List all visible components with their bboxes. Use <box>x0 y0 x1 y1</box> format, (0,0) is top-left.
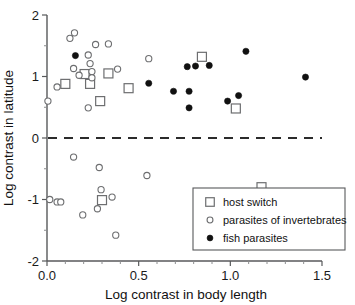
data-point <box>96 164 102 170</box>
data-point <box>206 62 212 68</box>
series-parasites-of-invertebrates <box>45 30 152 239</box>
y-axis-tick-label: 2 <box>32 8 39 23</box>
data-point <box>61 79 70 88</box>
data-point <box>85 105 91 111</box>
data-point <box>146 56 152 62</box>
data-point <box>186 105 192 111</box>
data-point <box>89 68 95 74</box>
scatter-plot-figure: 210-1-20.00.51.01.5 host switchparasites… <box>0 0 355 305</box>
data-point <box>92 41 98 47</box>
data-point <box>243 48 249 54</box>
legend-item-label: parasites of invertebrates <box>223 214 347 226</box>
data-point <box>80 212 86 218</box>
chart-legend: host switchparasites of invertebratesfis… <box>193 188 347 250</box>
y-axis-tick-label: -1 <box>27 192 39 207</box>
x-axis-tick-label: 0.0 <box>38 268 56 283</box>
y-axis-tick-label: 0 <box>32 131 39 146</box>
data-point <box>114 66 120 72</box>
x-axis-tick-label: 0.5 <box>130 268 148 283</box>
data-point <box>67 35 73 41</box>
data-point <box>76 72 82 78</box>
y-axis-tick-label: -2 <box>27 254 39 269</box>
data-point <box>235 92 241 98</box>
y-axis-tick-label: 1 <box>32 69 39 84</box>
data-point <box>170 88 176 94</box>
data-point <box>192 63 198 69</box>
legend-marker-filled-circle <box>207 235 213 241</box>
data-point <box>94 206 100 212</box>
data-point <box>96 97 105 106</box>
data-point <box>47 196 53 202</box>
legend-item-label: host switch <box>223 196 277 208</box>
legend-marker-open-circle <box>207 217 213 223</box>
x-axis-tick-label: 1.0 <box>221 268 239 283</box>
data-point <box>146 80 152 86</box>
data-point <box>71 30 77 36</box>
data-point <box>104 69 113 78</box>
data-point <box>54 84 60 90</box>
x-axis-tick-label: 1.5 <box>313 268 331 283</box>
data-point <box>124 84 133 93</box>
chart-canvas: 210-1-20.00.51.01.5 host switchparasites… <box>0 0 355 305</box>
data-point <box>231 104 240 113</box>
data-point <box>113 232 119 238</box>
data-point <box>58 199 64 205</box>
data-point <box>98 187 104 193</box>
data-point <box>109 194 115 200</box>
data-point <box>45 98 51 104</box>
data-point <box>184 64 190 70</box>
data-point <box>302 74 308 80</box>
data-point <box>197 52 206 61</box>
legend-marker-open-square <box>206 198 215 207</box>
data-point <box>70 65 76 71</box>
data-point <box>70 154 76 160</box>
data-point <box>87 60 93 66</box>
data-point <box>72 52 78 58</box>
data-point <box>89 75 95 81</box>
data-point <box>144 172 150 178</box>
data-point <box>186 88 192 94</box>
data-point <box>224 98 230 104</box>
legend-item-label: fish parasites <box>223 232 288 244</box>
data-point <box>98 196 107 205</box>
x-axis-title: Log contrast in body length <box>105 287 267 302</box>
series-fish-parasites <box>72 48 308 111</box>
data-point <box>105 41 111 47</box>
data-point <box>85 52 91 58</box>
y-axis-title: Log contrast in latitude <box>1 70 16 206</box>
